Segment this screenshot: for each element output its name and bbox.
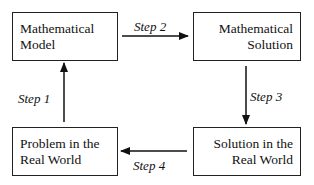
node-text: Mathematical bbox=[20, 21, 111, 37]
node-text: Solution bbox=[201, 37, 293, 53]
node-problem-real-world: Problem in the Real World bbox=[12, 127, 118, 176]
label-step-4: Step 4 bbox=[133, 158, 165, 174]
node-text: Real World bbox=[20, 152, 111, 168]
node-text: Solution in the bbox=[201, 136, 293, 152]
node-mathematical-model: Mathematical Model bbox=[12, 12, 118, 61]
label-step-2: Step 2 bbox=[134, 19, 166, 35]
node-text: Real World bbox=[201, 152, 293, 168]
label-step-1: Step 1 bbox=[18, 91, 50, 107]
node-text: Mathematical bbox=[201, 21, 293, 37]
node-text: Problem in the bbox=[20, 136, 111, 152]
node-mathematical-solution: Mathematical Solution bbox=[193, 12, 301, 61]
label-step-3: Step 3 bbox=[250, 89, 282, 105]
node-solution-real-world: Solution in the Real World bbox=[193, 127, 301, 176]
node-text: Model bbox=[20, 37, 111, 53]
